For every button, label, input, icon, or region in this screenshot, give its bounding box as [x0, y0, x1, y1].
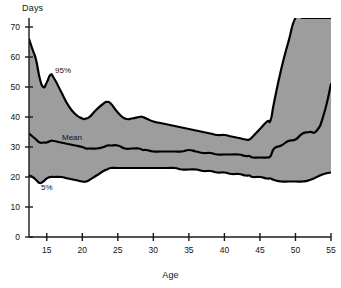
y-tick-label: 10	[2, 202, 20, 212]
series-annotation-95: 95%	[55, 66, 71, 75]
x-tick-label: 40	[213, 245, 235, 255]
x-tick-label: 20	[71, 245, 93, 255]
y-tick-label: 60	[2, 52, 20, 62]
x-tick-label: 25	[107, 245, 129, 255]
series-annotation-5: 5%	[41, 183, 53, 192]
x-axis-title: Age	[0, 270, 341, 280]
y-tick-label: 20	[2, 172, 20, 182]
x-tick-label: 50	[284, 245, 306, 255]
y-tick-label: 30	[2, 142, 20, 152]
x-tick-label: 15	[36, 245, 58, 255]
x-tick-label: 55	[320, 245, 341, 255]
chart-container: Days Age 010203040506070 152025303540455…	[0, 0, 341, 288]
series-annotation-mean: Mean	[62, 133, 82, 142]
x-tick-label: 30	[142, 245, 164, 255]
y-tick-label: 0	[2, 232, 20, 242]
y-tick-label: 40	[2, 112, 20, 122]
x-tick-label: 45	[249, 245, 271, 255]
y-tick-label: 70	[2, 22, 20, 32]
x-tick-label: 35	[178, 245, 200, 255]
y-axis-title: Days	[22, 3, 43, 13]
y-tick-label: 50	[2, 82, 20, 92]
